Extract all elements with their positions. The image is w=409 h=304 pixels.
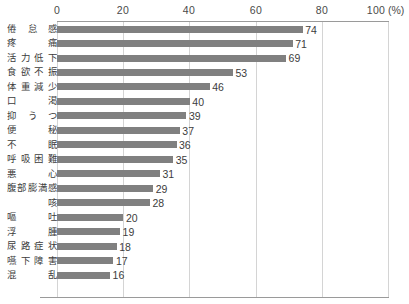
x-tick-label-20: 20 <box>117 4 129 16</box>
category-label: 体重減少 <box>7 80 57 94</box>
bar-value-label: 36 <box>179 138 191 152</box>
bar-row: 46 <box>57 80 389 94</box>
x-tick-label-80: 80 <box>316 4 328 16</box>
bar-row: 17 <box>57 254 389 268</box>
bar[interactable] <box>57 228 120 235</box>
bar-value-label: 74 <box>305 23 317 37</box>
category-label: 呼吸困難 <box>7 152 57 166</box>
bar[interactable] <box>57 98 190 105</box>
bar-row: 29 <box>57 181 389 195</box>
bar[interactable] <box>57 26 303 33</box>
x-tick-label-40: 40 <box>183 4 195 16</box>
bar-value-label: 19 <box>123 225 135 239</box>
bar[interactable] <box>57 243 117 250</box>
bar[interactable] <box>57 83 210 90</box>
bar-row: 28 <box>57 196 389 210</box>
bar-value-label: 40 <box>192 95 204 109</box>
category-label: 咳 <box>7 196 57 210</box>
x-tick-label-0: 0 <box>54 4 60 16</box>
category-label: 腹部膨満感 <box>7 181 57 195</box>
bar[interactable] <box>57 112 186 119</box>
bar[interactable] <box>57 185 153 192</box>
x-axis-line-bottom <box>40 297 389 298</box>
category-label: 食欲不振 <box>7 65 57 79</box>
bar[interactable] <box>57 127 180 134</box>
bar[interactable] <box>57 214 123 221</box>
category-label: 嚥下障害 <box>7 254 57 268</box>
bar[interactable] <box>57 272 110 279</box>
category-label: 悪 心 <box>7 167 57 181</box>
category-label: 抑うつ <box>7 109 57 123</box>
bar-value-label: 46 <box>212 80 224 94</box>
bar-value-label: 29 <box>156 182 168 196</box>
bar-value-label: 71 <box>295 37 307 51</box>
bar[interactable] <box>57 40 293 47</box>
bar-value-label: 37 <box>182 124 194 138</box>
x-axis-unit-label: (%) <box>388 4 404 16</box>
bar-value-label: 20 <box>126 211 138 225</box>
bar[interactable] <box>57 55 286 62</box>
bar[interactable] <box>57 257 113 264</box>
bar-row: 20 <box>57 210 389 224</box>
bar-row: 35 <box>57 152 389 166</box>
category-label: 倦怠感 <box>7 22 57 36</box>
bar-row: 31 <box>57 167 389 181</box>
horizontal-bar-chart: 0 20 40 60 80 100 (%) 747169534640393736… <box>0 0 409 304</box>
bar-value-label: 69 <box>289 51 301 65</box>
bar-value-label: 16 <box>113 268 125 282</box>
x-tick-label-60: 60 <box>250 4 262 16</box>
category-label: 嘔 吐 <box>7 210 57 224</box>
bar-value-label: 17 <box>116 254 128 268</box>
bar-value-label: 35 <box>176 153 188 167</box>
bar-row: 36 <box>57 138 389 152</box>
bar[interactable] <box>57 199 150 206</box>
category-label: 浮 腫 <box>7 225 57 239</box>
bar-row: 69 <box>57 51 389 65</box>
bar-row: 39 <box>57 109 389 123</box>
category-label: 疼 痛 <box>7 36 57 50</box>
bar[interactable] <box>57 69 233 76</box>
bar[interactable] <box>57 170 160 177</box>
category-label: 混 乱 <box>7 268 57 282</box>
bar-row: 16 <box>57 268 389 282</box>
category-label: 口 渇 <box>7 94 57 108</box>
bar-value-label: 39 <box>189 109 201 123</box>
bar[interactable] <box>57 141 177 148</box>
bar-value-label: 53 <box>235 66 247 80</box>
x-tick-label-100: 100 <box>367 4 385 16</box>
bar-row: 18 <box>57 239 389 253</box>
category-label: 尿路症状 <box>7 239 57 253</box>
bar-row: 53 <box>57 65 389 79</box>
bar-row: 37 <box>57 123 389 137</box>
bar-row: 74 <box>57 22 389 36</box>
bar-row: 71 <box>57 36 389 50</box>
bar-value-label: 28 <box>152 196 164 210</box>
bar-value-label: 18 <box>119 240 131 254</box>
bar-row: 40 <box>57 94 389 108</box>
plot-area: 747169534640393736353129282019181716 <box>57 22 389 297</box>
category-label: 不 眠 <box>7 138 57 152</box>
bar-value-label: 31 <box>162 167 174 181</box>
category-label: 活力低下 <box>7 51 57 65</box>
category-label: 便 秘 <box>7 123 57 137</box>
bar[interactable] <box>57 156 173 163</box>
bar-row: 19 <box>57 225 389 239</box>
